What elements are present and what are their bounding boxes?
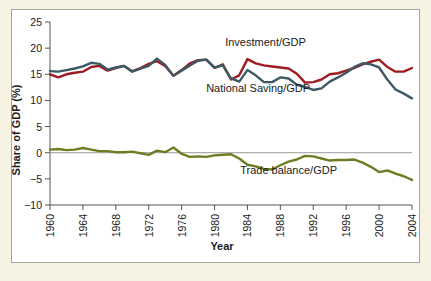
y-tick-label: 5: [36, 121, 42, 133]
x-tick-label: 2000: [373, 214, 385, 238]
x-tick-label: 1992: [307, 214, 319, 238]
x-tick-label: 1964: [77, 214, 89, 238]
series-group: [50, 59, 412, 180]
y-tick-label: 15: [30, 68, 42, 80]
y-tick-label: 10: [30, 94, 42, 106]
y-tick-label: 25: [30, 16, 42, 28]
y-tick-label: 20: [30, 42, 42, 54]
x-tick-label: 1968: [110, 214, 122, 238]
y-tick-label: 0: [36, 147, 42, 159]
x-tick-label: 1996: [340, 214, 352, 238]
chart-figure: −10−505101520251960196419681972197619801…: [0, 0, 431, 281]
x-tick-label: 2004: [406, 214, 418, 238]
axes-group: −10−505101520251960196419681972197619801…: [24, 16, 418, 237]
x-tick-label: 1984: [241, 214, 253, 238]
x-tick-label: 1972: [143, 214, 155, 238]
series-label-0: Investment/GDP: [225, 36, 306, 48]
y-axis-title: Share of GDP (%): [10, 84, 22, 175]
x-tick-label: 1976: [176, 214, 188, 238]
x-tick-label: 1980: [209, 214, 221, 238]
y-tick-label: −10: [24, 199, 42, 211]
series-label-2: Trade balance/GDP: [240, 164, 337, 176]
series-label-1: National Saving/GDP: [206, 82, 310, 94]
x-tick-label: 1988: [274, 214, 286, 238]
x-tick-label: 1960: [44, 214, 56, 238]
chart-plot-area: −10−505101520251960196419681972197619801…: [0, 0, 431, 281]
y-tick-label: −5: [30, 173, 42, 185]
x-axis-title: Year: [210, 240, 234, 252]
